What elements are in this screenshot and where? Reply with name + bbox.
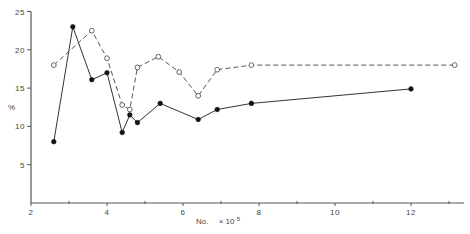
y-axis-label: % [8, 103, 15, 112]
x-tick-label: 4 [105, 208, 110, 217]
data-point-filled [249, 101, 254, 106]
data-point-filled [196, 117, 201, 122]
series-line-filled [54, 27, 411, 142]
y-tick-label: 25 [15, 8, 25, 17]
data-point-open [215, 67, 220, 72]
data-point-filled [409, 87, 414, 92]
x-tick-label: 8 [257, 208, 262, 217]
data-point-open [196, 93, 201, 98]
series-layer [51, 25, 457, 145]
x-tick-label: 12 [406, 208, 416, 217]
data-point-filled [90, 77, 95, 82]
data-point-filled [120, 130, 125, 135]
line-chart: 51015202524681012 % No. × 10 5 [0, 0, 470, 234]
axes: 51015202524681012 [15, 8, 464, 218]
data-point-open [177, 70, 182, 75]
x-axis-label-text: No. [196, 217, 208, 226]
y-tick-label: 20 [15, 46, 25, 55]
series-filled [52, 25, 414, 145]
data-point-filled [52, 139, 57, 144]
data-point-open [156, 54, 161, 59]
data-point-filled [215, 107, 220, 112]
data-point-open [105, 56, 110, 61]
series-open [51, 28, 457, 112]
data-point-open [51, 63, 56, 68]
data-point-open [249, 63, 254, 68]
x-axis-label: No. × 10 5 [196, 216, 241, 226]
data-point-open [120, 103, 125, 108]
series-line-open [54, 31, 455, 110]
x-tick-label: 2 [29, 208, 34, 217]
x-tick-label: 10 [330, 208, 340, 217]
data-point-open [127, 107, 132, 112]
data-point-filled [71, 25, 76, 30]
x-tick-label: 6 [181, 208, 186, 217]
data-point-filled [158, 101, 163, 106]
x-axis-label-exponent: 5 [237, 216, 241, 222]
x-axis-label-multiplier: × 10 [219, 217, 235, 226]
data-point-filled [128, 113, 133, 118]
data-point-open [452, 63, 457, 68]
y-tick-label: 15 [15, 84, 25, 93]
y-tick-label: 5 [20, 161, 25, 170]
data-point-filled [105, 71, 110, 76]
y-tick-label: 10 [15, 122, 25, 131]
data-point-filled [135, 120, 140, 125]
data-point-open [135, 65, 140, 70]
data-point-open [89, 28, 94, 33]
